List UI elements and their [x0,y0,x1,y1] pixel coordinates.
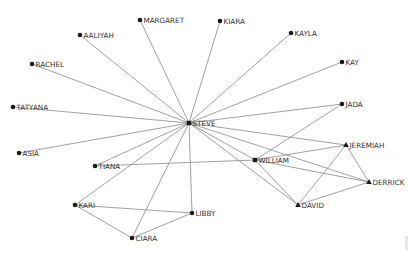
circle-node-icon [73,203,78,208]
edge-steve-asia [19,123,189,153]
network-graph: STEVEMARGARETKIARAKAYLAKAYJADAAALIYAHRAC… [0,0,412,258]
node-label: KIARA [224,17,245,26]
node-label: DAVID [302,201,325,210]
node-derrick[interactable]: DERRICK [366,178,405,187]
circle-node-icon [11,105,16,110]
circle-node-icon [340,60,345,65]
node-label: STEVE [193,119,216,128]
edge-steve-kayla [189,33,291,123]
node-steve[interactable]: STEVE [187,119,216,128]
edge-steve-derrick [189,123,369,182]
node-label: MARGARET [144,16,185,25]
node-tiana[interactable]: TIANA [93,162,121,171]
edge-steve-tiana [95,123,189,166]
edge-jeremiah-derrick [346,145,369,182]
edge-kari-ciara [75,205,132,238]
node-label: JADA [345,100,363,109]
circle-node-icon [78,33,83,38]
circle-node-icon [130,236,135,241]
circle-node-icon [138,18,143,23]
circle-node-icon [340,102,345,107]
edge-steve-ciara [132,123,189,238]
node-rachel[interactable]: RACHEL [30,60,64,69]
node-label: ASIA [23,149,40,158]
node-label: WILLIAM [259,156,289,165]
node-kayla[interactable]: KAYLA [289,29,317,38]
edge-steve-aaliyah [80,35,189,123]
edge-jeremiah-david [298,145,346,205]
node-label: KAYLA [295,29,318,38]
square-node-icon [187,121,191,125]
edge-jada-william [255,104,342,160]
edge-steve-kari [75,123,189,205]
node-jeremiah[interactable]: JEREMIAH [343,141,384,150]
circle-node-icon [93,164,98,169]
circle-node-icon [30,62,35,67]
node-label: DERRICK [373,178,405,187]
node-kiara[interactable]: KIARA [218,17,245,26]
node-label: KARI [79,201,96,210]
node-tatyana[interactable]: TATYANA [11,103,49,112]
node-label: RACHEL [36,60,64,69]
node-david[interactable]: DAVID [295,201,324,210]
square-node-icon [253,158,257,162]
node-label: KAY [346,58,360,67]
node-label: AALIYAH [84,31,114,40]
node-label: CIARA [136,234,158,243]
node-label: JEREMIAH [349,141,385,150]
node-libby[interactable]: LIBBY [190,209,216,218]
circle-node-icon [17,151,22,156]
node-kari[interactable]: KARI [73,201,95,210]
node-label: TATYANA [16,103,49,112]
circle-node-icon [190,211,195,216]
node-aaliyah[interactable]: AALIYAH [78,31,114,40]
node-asia[interactable]: ASIA [17,149,39,158]
node-label: TIANA [98,162,121,171]
node-william[interactable]: WILLIAM [253,156,289,165]
circle-node-icon [218,19,223,24]
node-kay[interactable]: KAY [340,58,360,67]
node-jada[interactable]: JADA [340,100,363,109]
scroll-indicator [405,236,408,250]
node-margaret[interactable]: MARGARET [138,16,185,25]
edge-steve-kiara [189,21,220,123]
edge-steve-libby [189,123,192,213]
node-label: LIBBY [196,209,217,218]
circle-node-icon [289,31,294,36]
